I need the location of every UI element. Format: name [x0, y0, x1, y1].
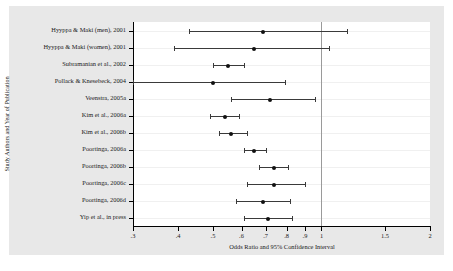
- y-axis-tick: [129, 99, 133, 100]
- y-axis-title: Study Authors and Year of Publication: [3, 76, 10, 171]
- odds-ratio-point-marker: [226, 64, 230, 68]
- confidence-interval-line: [219, 133, 247, 134]
- y-axis-tick-label: Poortinga, 2006a: [82, 146, 126, 152]
- ci-lower-cap: [213, 63, 214, 68]
- x-axis-tick-label: .3: [131, 232, 136, 239]
- ci-lower-cap: [244, 148, 245, 153]
- y-axis-tick-label: Kim et al., 2006b: [81, 129, 126, 135]
- ci-lower-cap: [210, 114, 211, 119]
- x-axis-tick-label: .6: [239, 232, 244, 239]
- y-axis-tick: [129, 116, 133, 117]
- x-axis-tick: [321, 227, 322, 231]
- ci-lower-cap: [244, 216, 245, 221]
- ci-lower-cap: [247, 182, 248, 187]
- odds-ratio-point-marker: [261, 200, 265, 204]
- y-axis-tick-label: Kim et al., 2006a: [82, 112, 126, 118]
- forest-plot-figure: Hyyppa & Maki (men), 2001Hyyppa & Maki (…: [0, 0, 453, 271]
- x-axis-tick: [287, 227, 288, 231]
- gridline: [133, 133, 430, 134]
- ci-upper-cap: [266, 148, 267, 153]
- ci-upper-cap: [244, 63, 245, 68]
- ci-upper-cap: [239, 114, 240, 119]
- odds-ratio-point-marker: [223, 115, 227, 119]
- y-axis-tick-label: Poortinga, 2006c: [82, 180, 126, 186]
- ci-upper-cap: [305, 182, 306, 187]
- ci-upper-cap: [292, 216, 293, 221]
- y-axis-tick-label: Hyyppa & Maki (women), 2001: [43, 44, 126, 50]
- y-axis-tick: [129, 218, 133, 219]
- x-axis-tick-label: .8: [284, 232, 289, 239]
- ci-lower-cap: [133, 80, 134, 85]
- y-axis-tick: [129, 65, 133, 66]
- odds-ratio-point-marker: [229, 132, 233, 136]
- x-axis-tick: [305, 227, 306, 231]
- confidence-interval-line: [133, 82, 285, 83]
- odds-ratio-point-marker: [272, 183, 276, 187]
- y-axis-tick: [129, 201, 133, 202]
- ci-upper-cap: [247, 131, 248, 136]
- x-axis-tick-label: .5: [211, 232, 216, 239]
- confidence-interval-line: [231, 99, 315, 100]
- ci-upper-cap: [285, 80, 286, 85]
- gridline: [133, 150, 430, 151]
- ci-lower-cap: [259, 165, 260, 170]
- y-axis-line: [133, 22, 134, 226]
- y-axis-tick: [129, 133, 133, 134]
- ci-lower-cap: [231, 97, 232, 102]
- odds-ratio-point-marker: [272, 166, 276, 170]
- x-axis-title: Odds Ratio and 95% Confidence Interval: [229, 243, 335, 250]
- y-axis-tick: [129, 48, 133, 49]
- x-axis-tick-label: 1.5: [381, 232, 389, 239]
- ci-upper-cap: [290, 199, 291, 204]
- x-axis-tick: [242, 227, 243, 231]
- x-axis-tick: [133, 227, 134, 231]
- odds-ratio-point-marker: [266, 217, 270, 221]
- plot-region: [133, 22, 430, 226]
- y-axis-tick-label: Subramanian et al., 2002: [62, 61, 126, 67]
- y-axis-tick-label: Poortinga, 2006b: [82, 163, 126, 169]
- x-axis-tick: [266, 227, 267, 231]
- x-axis-tick: [430, 227, 431, 231]
- x-axis-tick: [385, 227, 386, 231]
- ci-upper-cap: [288, 165, 289, 170]
- gridline: [133, 116, 430, 117]
- x-axis-tick-label: .4: [176, 232, 181, 239]
- ci-upper-cap: [347, 29, 348, 34]
- y-axis-tick-label: Pollack & Knesebeck, 2004: [55, 78, 126, 84]
- ci-lower-cap: [174, 46, 175, 51]
- ci-lower-cap: [219, 131, 220, 136]
- odds-ratio-point-marker: [261, 30, 265, 34]
- y-axis-tick-label: Veenstra, 2005a: [85, 95, 126, 101]
- y-axis-tick-label: Poortinga, 2006d: [82, 197, 126, 203]
- reference-line-or-1: [321, 22, 322, 226]
- x-axis-tick: [213, 227, 214, 231]
- confidence-interval-line: [189, 31, 347, 32]
- x-axis-tick-label: 1: [320, 232, 323, 239]
- x-axis-tick-label: .7: [263, 232, 268, 239]
- ci-upper-cap: [315, 97, 316, 102]
- x-axis-tick: [178, 227, 179, 231]
- gridline: [133, 65, 430, 66]
- ci-lower-cap: [189, 29, 190, 34]
- odds-ratio-point-marker: [211, 81, 215, 85]
- y-axis-tick: [129, 184, 133, 185]
- y-axis-tick: [129, 150, 133, 151]
- ci-upper-cap: [329, 46, 330, 51]
- x-axis-tick-label: 2: [428, 232, 431, 239]
- odds-ratio-point-marker: [252, 47, 256, 51]
- y-axis-tick: [129, 31, 133, 32]
- odds-ratio-point-marker: [268, 98, 272, 102]
- y-axis-tick-label: Hyyppa & Maki (men), 2001: [51, 27, 126, 33]
- odds-ratio-point-marker: [252, 149, 256, 153]
- ci-lower-cap: [236, 199, 237, 204]
- y-axis-tick-label: Yip et al., in press: [80, 214, 126, 220]
- x-axis-tick-label: .9: [303, 232, 308, 239]
- y-axis-tick: [129, 167, 133, 168]
